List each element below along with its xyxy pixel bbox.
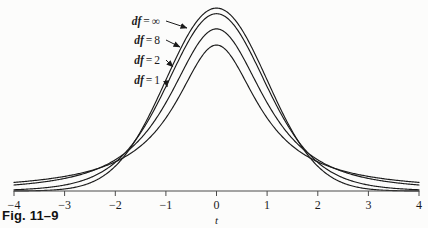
x-axis-label: t [215,214,218,226]
figure-caption: Fig. 11–9 [2,208,59,223]
leader-arrow [166,60,173,67]
x-tick-label: 0 [214,198,220,213]
x-tick-label: 2 [315,198,321,213]
leader-arrow [166,21,187,28]
equals-sign: = [144,34,155,46]
x-axis [14,191,419,196]
x-tick-label: 1 [264,198,270,213]
series-label-df-: df=∞ [0,15,160,27]
leader-arrow [166,40,180,47]
df-symbol: df [132,15,142,27]
x-tick-label: −2 [109,198,122,213]
equals-sign: = [144,54,155,66]
equals-sign: = [144,74,155,86]
df-value: ∞ [152,15,160,27]
df-value: 1 [154,74,160,86]
df-value: 8 [154,34,160,46]
x-tick-label: 3 [365,198,371,213]
equals-sign: = [141,15,152,27]
df-symbol: df [134,74,144,86]
df-value: 2 [154,54,160,66]
series-label-df-1: df=1 [0,74,160,86]
df-symbol: df [134,34,144,46]
x-tick-label: 4 [416,198,422,213]
x-tick-label: −1 [160,198,173,213]
figure-11-9: −4−3−2−101234 t df=∞df=8df=2df=1 Fig. 11… [0,0,428,228]
df-symbol: df [134,54,144,66]
series-label-df-8: df=8 [0,34,160,46]
series-label-df-2: df=2 [0,54,160,66]
label-leader-lines [166,21,187,87]
x-tick-label: −3 [58,198,71,213]
curve-df-2 [14,29,419,185]
